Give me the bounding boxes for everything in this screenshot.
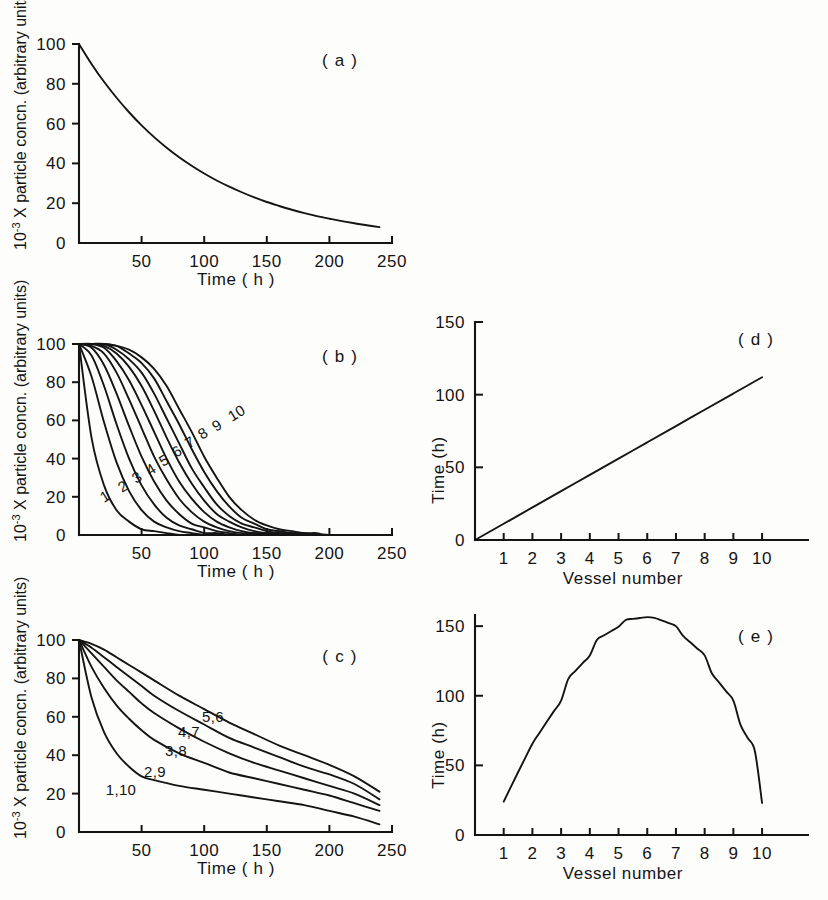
- curve-9: [79, 344, 392, 535]
- panel-a-yaxis-title: 10-3 X particle concn. (arbitrary units): [10, 0, 29, 250]
- y-tick-label: 150: [435, 617, 465, 636]
- x-tick-label: 2: [527, 844, 537, 863]
- panel-d-tag: ( d ): [738, 330, 774, 349]
- y-tick-label: 100: [36, 335, 66, 354]
- x-tick-label: 3: [556, 844, 566, 863]
- panel-a-y-ticks: 020406080100: [36, 35, 79, 253]
- y-tick-label: 100: [36, 35, 66, 54]
- y-tick-label: 60: [46, 411, 66, 430]
- curve-2: [79, 344, 392, 535]
- x-tick-label: 50: [132, 841, 152, 860]
- x-tick-label: 150: [252, 841, 282, 860]
- x-tick-label: 6: [642, 844, 652, 863]
- panel-a-tag: ( a ): [322, 51, 358, 70]
- panel-c-curve-labels: 1,102,93,84,75,6: [106, 708, 224, 798]
- y-tick-label: 80: [46, 75, 66, 94]
- panel-e-x-ticks: 12345678910: [499, 828, 772, 863]
- x-tick-label: 50: [132, 252, 152, 271]
- x-tick-label: 200: [314, 841, 344, 860]
- y-tick-label: 40: [46, 746, 66, 765]
- y-tick-label: 60: [46, 708, 66, 727]
- y-tick-label: 20: [46, 488, 66, 507]
- panel-d: Time (h) 050100150 12345678910 Vessel nu…: [408, 300, 828, 590]
- x-tick-label: 4: [585, 844, 595, 863]
- panel-c-x-ticks: 50100150200250: [132, 825, 407, 860]
- panel-c-yaxis-title: 10-3 X particle concn. (arbitrary units): [10, 577, 29, 839]
- x-tick-label: 150: [252, 252, 282, 271]
- y-tick-label: 40: [46, 450, 66, 469]
- y-axis-prefix: 10: [12, 821, 29, 839]
- y-tick-label: 20: [46, 785, 66, 804]
- x-tick-label: 100: [189, 252, 219, 271]
- panel-e-x-axis-title: Vessel number: [563, 864, 683, 883]
- y-axis-exponent: -3: [10, 811, 22, 821]
- panel-c: 10-3 X particle concn. (arbitrary units)…: [0, 590, 420, 900]
- y-tick-label: 0: [56, 234, 66, 253]
- y-tick-label: 60: [46, 115, 66, 134]
- x-tick-label: 250: [377, 252, 407, 271]
- panel-b-x-axis-title: Time ( h ): [197, 562, 275, 581]
- panel-a-curve: [79, 44, 379, 227]
- x-tick-label: 8: [700, 844, 710, 863]
- panel-e-curve: [504, 617, 762, 803]
- x-tick-label: 100: [189, 544, 219, 563]
- panel-b-curves: [79, 344, 392, 536]
- panel-d-curve: [475, 377, 762, 540]
- panel-b-tag: ( b ): [322, 347, 358, 366]
- x-tick-label: 7: [671, 549, 681, 568]
- y-tick-label: 40: [46, 154, 66, 173]
- y-tick-label: 0: [455, 826, 465, 845]
- y-tick-label: 100: [435, 386, 465, 405]
- panel-b: 10-3 X particle concn. (arbitrary units)…: [0, 300, 420, 590]
- panel-c-axes: [79, 640, 392, 832]
- x-tick-label: 10: [752, 844, 772, 863]
- x-tick-label: 50: [132, 544, 152, 563]
- panel-c-curve-label: 1,10: [106, 781, 136, 798]
- x-tick-label: 9: [728, 844, 738, 863]
- y-axis-rest: X particle concn. (arbitrary units): [12, 280, 29, 515]
- curve-10: [79, 344, 392, 535]
- curve-5: [79, 344, 392, 535]
- x-tick-label: 2: [527, 549, 537, 568]
- curve-7: [79, 344, 392, 535]
- x-tick-label: 4: [585, 549, 595, 568]
- y-tick-label: 50: [445, 458, 465, 477]
- y-tick-label: 50: [445, 756, 465, 775]
- curve-1: [79, 344, 392, 535]
- panel-c-curve-label: 4,7: [178, 723, 200, 740]
- panel-b-curve-label: 5: [156, 451, 172, 470]
- x-tick-label: 5: [614, 844, 624, 863]
- x-tick-label: 9: [728, 549, 738, 568]
- y-axis-prefix: 10: [12, 232, 29, 250]
- panel-b-curve-label: 9: [209, 416, 225, 435]
- y-tick-label: 150: [435, 313, 465, 332]
- svg-text:10-3 X particle concn. (arbitr: 10-3 X particle concn. (arbitrary units): [10, 280, 29, 542]
- svg-text:10-3 X particle concn. (arbitr: 10-3 X particle concn. (arbitrary units): [10, 577, 29, 839]
- panel-e-axes: [475, 615, 808, 835]
- panel-c-y-ticks: 020406080100: [36, 631, 79, 842]
- y-tick-label: 80: [46, 373, 66, 392]
- panel-d-x-ticks: 12345678910: [499, 533, 772, 568]
- panel-b-curve-label: 10: [225, 401, 249, 425]
- y-tick-label: 100: [435, 687, 465, 706]
- panel-b-curve-label: 7: [182, 433, 198, 452]
- curve-4: [79, 344, 392, 535]
- x-tick-label: 1: [499, 844, 509, 863]
- panel-a-x-ticks: 50100150200250: [132, 236, 407, 271]
- x-tick-label: 200: [314, 252, 344, 271]
- x-tick-label: 250: [377, 841, 407, 860]
- panel-e: Time (h) 050100150 12345678910 Vessel nu…: [408, 590, 828, 900]
- y-axis-rest: X particle concn. (arbitrary units): [12, 577, 29, 812]
- x-tick-label: 6: [642, 549, 652, 568]
- panel-e-y-axis-title: Time (h): [429, 721, 448, 788]
- panel-a-x-axis-title: Time ( h ): [197, 270, 275, 289]
- figure-root: 10-3 X particle concn. (arbitrary units)…: [0, 0, 828, 900]
- x-tick-label: 3: [556, 549, 566, 568]
- x-tick-label: 10: [752, 549, 772, 568]
- panel-c-tag: ( c ): [322, 647, 357, 666]
- panel-b-yaxis-title: 10-3 X particle concn. (arbitrary units): [10, 280, 29, 542]
- x-tick-label: 5: [614, 549, 624, 568]
- panel-b-curve-label: 2: [115, 477, 131, 496]
- panel-c-curve-label: 5,6: [202, 708, 224, 725]
- y-tick-label: 100: [36, 631, 66, 650]
